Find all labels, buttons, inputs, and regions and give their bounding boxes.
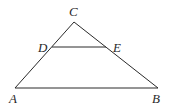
- label-B: B: [152, 91, 160, 106]
- segment-CB: [74, 22, 158, 88]
- label-A: A: [8, 91, 17, 106]
- triangle-diagram: C D E A B: [0, 0, 169, 108]
- label-D: D: [37, 40, 48, 55]
- label-C: C: [69, 4, 78, 19]
- label-E: E: [112, 40, 121, 55]
- segment-CA: [15, 22, 74, 88]
